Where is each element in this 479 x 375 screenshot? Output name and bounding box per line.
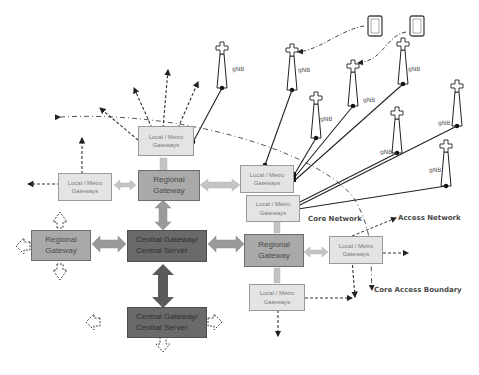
node-label: Local / Metro [260, 289, 295, 297]
core-access-boundary-label: Core Access Boundary [374, 286, 462, 294]
node-label: Gateways [250, 179, 285, 187]
node-label: Local / Metro [250, 171, 285, 179]
node-label: Local / Metro [149, 133, 184, 141]
node-label: Gateways [68, 187, 103, 195]
local-metro-gateway-right-top[interactable]: Local / MetroGateways [240, 165, 294, 193]
node-label: Central Server [136, 246, 198, 257]
node-label: Gateways [260, 298, 295, 306]
core-access-boundary-curve [60, 116, 372, 290]
gnb-label: gNB [408, 65, 420, 72]
regional-gateway-right[interactable]: RegionalGateway [244, 234, 304, 267]
gnb-label: gNB [429, 166, 441, 173]
node-label: Local / Metro [68, 179, 103, 187]
node-label: Gateways [256, 209, 291, 217]
local-metro-gateway-top[interactable]: Local / MetroGateways [138, 126, 194, 156]
node-label: Gateways [339, 250, 374, 258]
local-metro-gateway-left[interactable]: Local / MetroGateways [58, 173, 112, 201]
local-metro-gateway-bottom[interactable]: Local / MetroGateways [249, 284, 305, 311]
local-metro-gateway-access[interactable]: Local / MetroGateways [329, 236, 383, 264]
node-label: Regional [258, 240, 290, 251]
central-gateway-secondary[interactable]: Central Gateway/Central Server [127, 307, 207, 338]
node-label: Gateways [149, 141, 184, 149]
node-label: Gateway [45, 246, 77, 257]
gnb-label: gNB [380, 148, 392, 155]
access-network-label: Access Network [398, 214, 461, 222]
gnb-label: gNB [363, 96, 375, 103]
core-network-label: Core Network [308, 215, 362, 223]
local-metro-gateway-core[interactable]: Local / MetroGateways [246, 195, 300, 222]
dashed-outbound-arrows [28, 70, 408, 336]
central-gateway-main[interactable]: Central Gateway/Central Server [127, 230, 207, 262]
node-label: Local / Metro [256, 200, 291, 208]
dark-connector [152, 264, 174, 308]
node-label: Gateway [153, 186, 185, 197]
gnb-label: gNB [438, 119, 450, 126]
device-icon [410, 16, 424, 36]
gnb-label: gNB [298, 66, 310, 73]
node-label: Regional [45, 235, 77, 246]
gnb-label: gNB [320, 115, 332, 122]
node-label: Gateway [258, 251, 290, 262]
regional-gateway-top[interactable]: RegionalGateway [138, 170, 200, 201]
node-label: Central Server [136, 323, 198, 334]
node-label: Central Gateway/ [136, 312, 198, 323]
node-label: Local / Metro [339, 242, 374, 250]
node-label: Regional [153, 175, 185, 186]
regional-gateway-left[interactable]: RegionalGateway [31, 230, 91, 261]
node-label: Central Gateway/ [136, 235, 198, 246]
gnb-label: gNB [232, 65, 244, 72]
device-icon [368, 16, 382, 36]
